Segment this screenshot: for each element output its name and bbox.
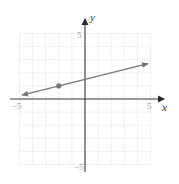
x-max-tick-label: 5	[147, 101, 152, 111]
y-max-tick-label: 5	[77, 30, 82, 40]
plotted-point	[56, 83, 61, 88]
y-min-tick-label: −5	[74, 162, 84, 172]
coordinate-plane: x y −5 5 5 −5	[0, 0, 179, 184]
x-axis-label: x	[161, 101, 167, 113]
y-axis-label: y	[89, 11, 95, 23]
x-min-tick-label: −5	[12, 101, 22, 111]
